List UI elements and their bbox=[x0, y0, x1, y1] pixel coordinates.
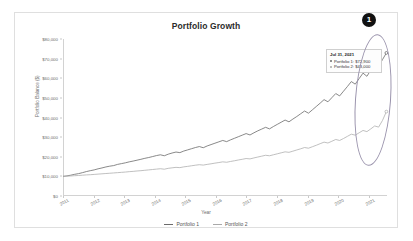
series-line-2 bbox=[63, 112, 386, 177]
x-tick-label: 2020 bbox=[334, 198, 345, 207]
x-tick-mark bbox=[94, 196, 95, 198]
chart-card: Portfolio Growth Portfolio Balance ($) $… bbox=[14, 12, 398, 228]
y-tick-mark bbox=[60, 39, 62, 40]
x-tick-label: 2017 bbox=[242, 198, 253, 207]
y-tick-label: $40,000 bbox=[42, 115, 58, 120]
legend-swatch-portfolio-1 bbox=[164, 224, 173, 225]
x-tick-mark bbox=[124, 196, 125, 198]
y-tick-label: $30,000 bbox=[42, 135, 58, 140]
x-tick-label: 2015 bbox=[181, 198, 192, 207]
y-tick-mark bbox=[60, 117, 62, 118]
x-tick-label: 2019 bbox=[303, 198, 314, 207]
x-tick-label: 2021 bbox=[364, 198, 375, 207]
legend-label-portfolio-1: Portfolio 1 bbox=[176, 221, 199, 227]
legend-swatch-portfolio-2 bbox=[213, 224, 222, 225]
x-tick-label: 2018 bbox=[273, 198, 284, 207]
chart-legend: Portfolio 1 Portfolio 2 bbox=[15, 221, 397, 227]
x-tick-mark bbox=[277, 196, 278, 198]
x-tick-mark bbox=[185, 196, 186, 198]
y-tick-mark bbox=[60, 78, 62, 79]
legend-label-portfolio-2: Portfolio 2 bbox=[225, 221, 248, 227]
y-tick-mark bbox=[60, 156, 62, 157]
x-tick-mark bbox=[338, 196, 339, 198]
x-tick-mark bbox=[155, 196, 156, 198]
y-tick-mark bbox=[60, 58, 62, 59]
x-axis-title: Year bbox=[15, 210, 397, 215]
x-tick-label: 2016 bbox=[212, 198, 223, 207]
x-tick-mark bbox=[308, 196, 309, 198]
x-tick-label: 2014 bbox=[150, 198, 161, 207]
x-tick-label: 2013 bbox=[120, 198, 131, 207]
x-tick-mark bbox=[63, 196, 64, 198]
y-tick-mark bbox=[60, 97, 62, 98]
x-tick-mark bbox=[216, 196, 217, 198]
legend-item-portfolio-2[interactable]: Portfolio 2 bbox=[213, 221, 248, 227]
tooltip-dot-portfolio-1 bbox=[330, 60, 332, 62]
chart-title: Portfolio Growth bbox=[15, 21, 397, 31]
x-tick-label: 2012 bbox=[89, 198, 100, 207]
y-tick-label: $20,000 bbox=[42, 154, 58, 159]
x-tick-mark bbox=[369, 196, 370, 198]
tooltip-dot-portfolio-2 bbox=[330, 66, 332, 68]
annotation-badge-1[interactable]: 1 bbox=[362, 13, 376, 27]
y-tick-label: $0 bbox=[53, 194, 58, 199]
y-tick-label: $70,000 bbox=[42, 56, 58, 61]
y-tick-label: $50,000 bbox=[42, 95, 58, 100]
y-tick-mark bbox=[60, 176, 62, 177]
y-tick-label: $80,000 bbox=[42, 37, 58, 42]
x-tick-mark bbox=[246, 196, 247, 198]
legend-item-portfolio-1[interactable]: Portfolio 1 bbox=[164, 221, 199, 227]
y-tick-mark bbox=[60, 137, 62, 138]
screenshot-root: Portfolio Growth Portfolio Balance ($) $… bbox=[0, 0, 413, 241]
y-tick-label: $10,000 bbox=[42, 174, 58, 179]
y-axis-title: Portfolio Balance ($) bbox=[35, 75, 40, 117]
y-tick-label: $60,000 bbox=[42, 76, 58, 81]
x-tick-label: 2011 bbox=[59, 198, 70, 207]
y-tick-mark bbox=[60, 196, 62, 197]
